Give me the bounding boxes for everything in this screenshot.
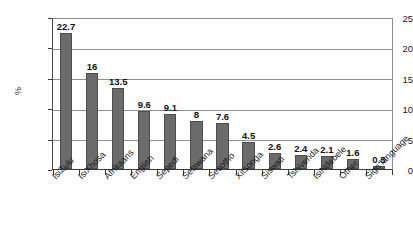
bar-slot: 16	[79, 19, 105, 169]
bar-value-label: 7.6	[216, 112, 229, 122]
category-label-slot: Other	[339, 172, 365, 241]
category-label-slot: IsiXhosa	[78, 172, 104, 241]
category-label-slot: IsiNdebele	[313, 172, 339, 241]
category-label-slot: Setswana	[182, 172, 208, 241]
bar-value-label: 1.6	[346, 148, 359, 158]
y-tick-label-20: 20	[391, 44, 413, 53]
bar-value-label: 2.6	[268, 142, 281, 152]
bar-value-label: 4.5	[242, 131, 255, 141]
bar-value-label: 8	[194, 110, 199, 120]
category-label-slot: Xitsonga	[235, 172, 261, 241]
category-label-slot: Afrikaans	[104, 172, 130, 241]
bar-slot: 13.5	[105, 19, 131, 169]
category-label-layer: IsiZuluIsiXhosaAfrikaansEnglishSepediSet…	[52, 172, 393, 241]
bar-value-label: 9.1	[164, 103, 177, 113]
bar-chart: % 25 20 15 10 5 0 22.71613.59.69.187.64.…	[0, 0, 413, 241]
bar-slot: 0.5	[366, 19, 392, 169]
category-label-slot: Sign language	[365, 172, 391, 241]
y-tick-label-0: 0	[391, 166, 413, 175]
bar-value-label: 13.5	[109, 77, 128, 87]
category-label-slot: Sesotho	[208, 172, 234, 241]
y-axis-title: %	[13, 87, 23, 95]
y-tick-label-10: 10	[391, 105, 413, 114]
category-label-slot: English	[130, 172, 156, 241]
category-label-slot: IsiZulu	[52, 172, 78, 241]
category-label-slot: Tshivenda	[287, 172, 313, 241]
category-label-slot: Sepedi	[156, 172, 182, 241]
category-label-slot: Siswati	[261, 172, 287, 241]
y-tick-label-25: 25	[391, 14, 413, 23]
bar-slot: 9.6	[131, 19, 157, 169]
bar-slot: 9.1	[157, 19, 183, 169]
bar-value-label: 16	[87, 62, 98, 72]
bar-value-label: 22.7	[57, 22, 76, 32]
bar-slot: 22.7	[53, 19, 79, 169]
bar-slot: 2.4	[288, 19, 314, 169]
bar-slot: 2.6	[262, 19, 288, 169]
bar-slot: 7.6	[209, 19, 235, 169]
bar-slot: 4.5	[236, 19, 262, 169]
bar: 22.7	[60, 33, 72, 169]
y-tick-label-15: 15	[391, 75, 413, 84]
bar-value-label: 9.6	[138, 100, 151, 110]
bar-slot: 2.1	[314, 19, 340, 169]
